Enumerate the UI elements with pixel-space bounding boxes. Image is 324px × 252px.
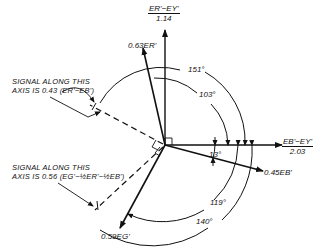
angle-140-label: 140° xyxy=(196,217,213,226)
angle-103-label: 103° xyxy=(199,90,216,99)
vertical-axis-numerator: ER'−EY' xyxy=(148,4,180,14)
angle-13-label: 13° xyxy=(209,150,221,159)
blue-vector-label: 0.45EB' xyxy=(264,168,292,177)
lower-annotation-line1: SIGNAL ALONG THIS xyxy=(12,163,124,172)
lower-annotation-line2: AXIS IS 0.56 (EG'−½ER'−½EB') xyxy=(12,172,124,181)
upper-annotation-line2: AXIS IS 0.43 (ER'−EB') xyxy=(12,86,94,95)
horizontal-axis-numerator: EB'−EY' xyxy=(282,137,313,147)
angle-119-label: 119° xyxy=(210,198,226,207)
lower-annotation: SIGNAL ALONG THIS AXIS IS 0.56 (EG'−½ER'… xyxy=(12,163,124,181)
red-vector-label: 0.63ER' xyxy=(128,41,156,50)
green-vector-label: 0.59EG' xyxy=(101,232,130,241)
upper-annotation: SIGNAL ALONG THIS AXIS IS 0.43 (ER'−EB') xyxy=(12,77,94,95)
vector-diagram: ER'−EY' 1.14 EB'−EY' 2.03 0.63ER' 0.45EB… xyxy=(0,0,324,252)
horizontal-axis-label: EB'−EY' 2.03 xyxy=(282,137,313,156)
angle-151-label: 151° xyxy=(188,65,205,74)
upper-annotation-line1: SIGNAL ALONG THIS xyxy=(12,77,94,86)
vertical-axis-label: ER'−EY' 1.14 xyxy=(148,4,180,23)
vertical-axis-denominator: 1.14 xyxy=(148,14,180,23)
horizontal-axis-denominator: 2.03 xyxy=(282,147,313,156)
diagram-lines xyxy=(0,0,324,252)
